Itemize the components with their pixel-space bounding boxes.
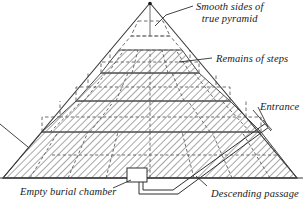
label-descending-passage: Descending passage	[211, 188, 299, 200]
hidden-steps-dashed	[119, 21, 182, 50]
label-empty-burial-chamber: Empty burial chamber	[20, 186, 117, 198]
label-remains-of-steps: Remains of steps	[216, 53, 288, 65]
tier-hidden-second	[119, 36, 182, 50]
empty-burial-chamber	[127, 168, 147, 182]
tier-3-solid	[42, 101, 261, 132]
label-entrance: Entrance	[260, 101, 299, 113]
apex-point	[148, 2, 152, 6]
leader-cut-off-left	[0, 124, 28, 147]
leader-smooth-sides	[166, 6, 193, 15]
label-smooth-sides-line1: Smooth sides of	[196, 1, 263, 13]
pyramid-diagram-svg	[0, 0, 303, 208]
tier-hidden-top	[131, 21, 170, 36]
pyramid-diagram: Smooth sides of true pyramid Remains of …	[0, 0, 303, 208]
label-smooth-sides-line2: true pyramid	[196, 13, 263, 25]
label-smooth-sides: Smooth sides of true pyramid	[196, 1, 263, 25]
